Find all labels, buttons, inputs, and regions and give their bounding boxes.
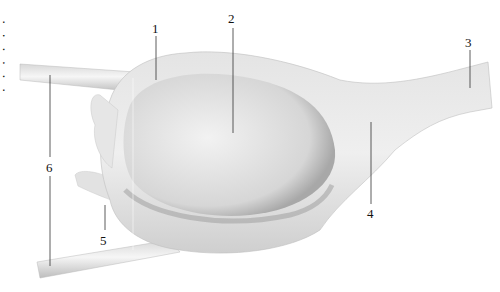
specimen-illustration: [0, 0, 500, 292]
anatomical-figure: · · · · · · 1 2 3 4 5 6: [0, 0, 500, 292]
label-1: 1: [152, 22, 159, 35]
label-4: 4: [367, 207, 374, 220]
label-3: 3: [465, 36, 472, 49]
label-6: 6: [46, 161, 53, 174]
edge-text: · · · · · ·: [0, 20, 12, 290]
label-2: 2: [228, 12, 235, 25]
label-5: 5: [100, 234, 107, 247]
